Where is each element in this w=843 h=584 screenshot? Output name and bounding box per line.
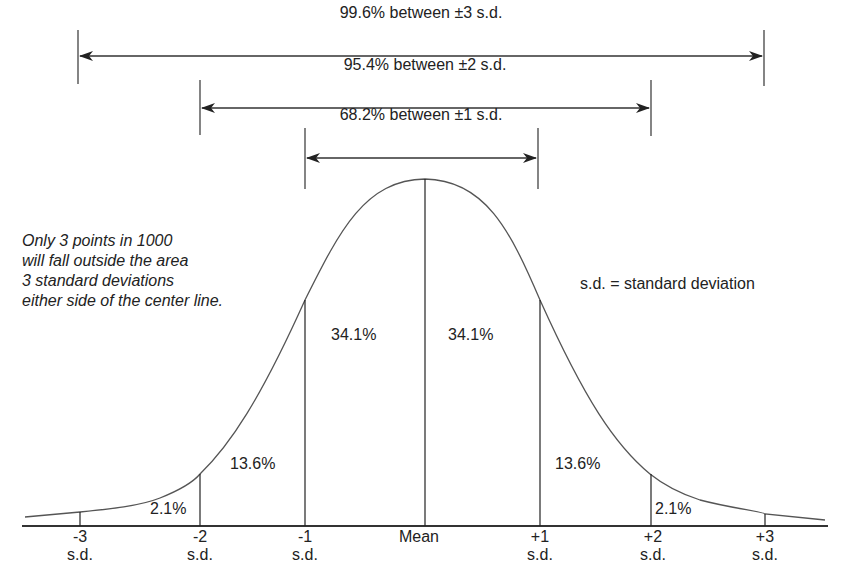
segment-label: 13.6% [230, 455, 275, 473]
range-label-2sd: 95.4% between ±2 s.d. [344, 56, 507, 74]
axis-tick: -2s.d. [187, 528, 213, 564]
segment-label: 34.1% [448, 326, 493, 344]
note-text: Only 3 points in 1000 will fall outside … [22, 231, 223, 311]
axis-tick: -1s.d. [292, 528, 318, 564]
legend-text: s.d. = standard deviation [580, 275, 755, 293]
note-line: Only 3 points in 1000 [22, 231, 223, 251]
segment-label: 13.6% [555, 455, 600, 473]
segment-label: 2.1% [150, 500, 186, 518]
range-label-3sd: 99.6% between ±3 s.d. [340, 4, 503, 22]
axis-tick: +1s.d. [527, 528, 553, 564]
axis-tick: +3s.d. [752, 528, 778, 564]
segment-label: 34.1% [331, 326, 376, 344]
segment-label: 2.1% [655, 500, 691, 518]
note-line: either side of the center line. [22, 291, 223, 311]
note-line: 3 standard deviations [22, 271, 223, 291]
range-label-1sd: 68.2% between ±1 s.d. [340, 106, 503, 124]
axis-tick: +2s.d. [640, 528, 666, 564]
note-line: will fall outside the area [22, 251, 223, 271]
axis-tick: Mean [399, 528, 439, 546]
axis-tick: -3s.d. [67, 528, 93, 564]
